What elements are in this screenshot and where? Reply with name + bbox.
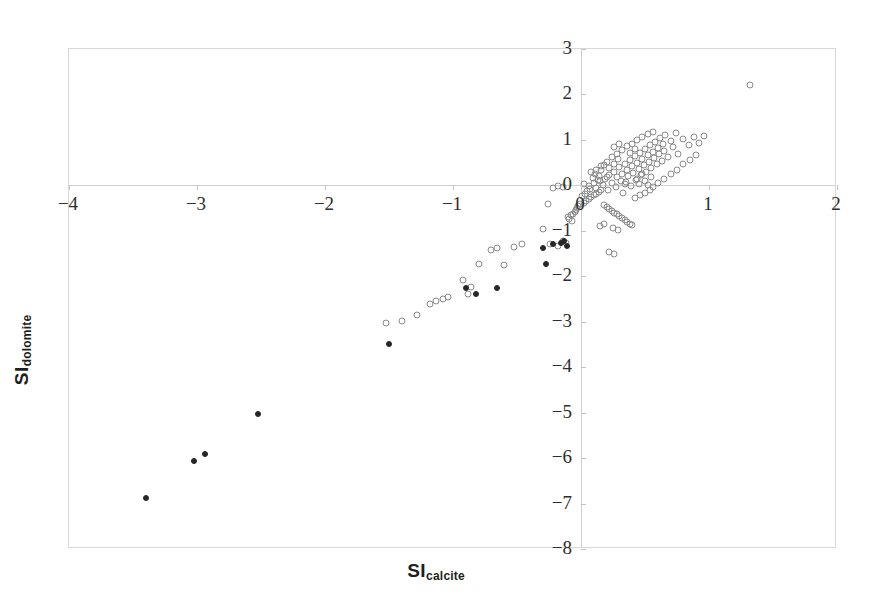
data-point [544, 200, 551, 207]
y-axis-tick-label: −4 [552, 355, 572, 377]
data-point [746, 82, 753, 89]
x-axis-tick-label: −4 [58, 193, 78, 215]
y-axis-tick-label: 3 [563, 37, 573, 59]
y-axis-tick [581, 458, 586, 459]
x-axis-tick-label: −3 [186, 193, 206, 215]
x-axis-tick [453, 185, 454, 190]
data-point [564, 243, 570, 249]
y-axis-tick [581, 140, 586, 141]
data-point [612, 184, 619, 191]
y-axis-tick-label: −5 [552, 401, 572, 423]
y-axis-tick-label: −1 [552, 219, 572, 241]
data-point [597, 223, 604, 230]
data-point [589, 175, 596, 182]
data-point [598, 186, 605, 193]
data-point [675, 150, 682, 157]
x-axis-tick-label: 2 [831, 193, 841, 215]
data-point [603, 174, 610, 181]
y-axis-tick [581, 413, 586, 414]
data-point [191, 458, 197, 464]
data-point [615, 156, 622, 163]
data-point [398, 317, 405, 324]
y-axis-tick-label: −6 [552, 446, 572, 468]
x-axis-title: SIcalcite [407, 560, 465, 583]
data-point [611, 144, 618, 151]
data-point [615, 226, 622, 233]
y-axis-title: SIdolomite [11, 315, 34, 386]
y-axis-tick [581, 231, 586, 232]
y-axis-tick [581, 549, 586, 550]
data-point [672, 129, 679, 136]
data-point [631, 146, 638, 153]
y-axis-tick [581, 94, 586, 95]
y-axis-title-subscript: dolomite [20, 315, 34, 367]
y-axis-title-main: SI [11, 366, 32, 385]
data-point [543, 261, 549, 267]
x-axis-tick [69, 185, 70, 190]
data-point [475, 260, 482, 267]
data-point [473, 291, 479, 297]
data-point [629, 222, 636, 229]
y-axis-tick [581, 276, 586, 277]
y-axis-tick-label: −3 [552, 310, 572, 332]
x-axis-tick [197, 185, 198, 190]
data-point [493, 245, 500, 252]
x-axis-tick-label: −2 [314, 193, 334, 215]
y-axis-tick [581, 322, 586, 323]
data-point [639, 171, 646, 178]
data-point [627, 183, 634, 190]
data-point [665, 154, 672, 161]
data-point [494, 285, 500, 291]
x-axis-tick [837, 185, 838, 190]
x-axis-title-main: SI [407, 560, 426, 581]
data-point [611, 251, 618, 258]
y-axis-tick [581, 504, 586, 505]
data-point [648, 174, 655, 181]
y-axis-tick-label: 1 [563, 128, 573, 150]
data-point [598, 163, 605, 170]
plot-area [68, 48, 836, 548]
scatter-chart-figure: Carbonate rocks Clastic sedimentary rock… [0, 0, 872, 607]
data-point [255, 411, 261, 417]
data-point [700, 133, 707, 140]
x-axis-tick-label: 1 [703, 193, 713, 215]
y-axis-tick [581, 185, 586, 186]
data-point [621, 181, 628, 188]
y-axis-tick-label: −7 [552, 492, 572, 514]
x-axis-tick [325, 185, 326, 190]
data-point [695, 139, 702, 146]
data-point [444, 294, 451, 301]
data-point [620, 189, 627, 196]
data-point [649, 128, 656, 135]
data-point [463, 285, 469, 291]
data-point [686, 156, 693, 163]
data-point [674, 166, 681, 173]
y-axis-tick-label: −2 [552, 264, 572, 286]
data-point [414, 312, 421, 319]
y-zero-axis-line [581, 49, 582, 547]
data-point [501, 262, 508, 269]
data-point [519, 240, 526, 247]
data-point [511, 244, 518, 251]
data-point [693, 152, 700, 159]
data-point [550, 241, 556, 247]
data-point [383, 319, 390, 326]
data-point [386, 341, 392, 347]
x-axis-title-subscript: calcite [426, 569, 465, 583]
data-point [202, 451, 208, 457]
y-axis-tick-label: −8 [552, 537, 572, 559]
y-axis-tick [581, 367, 586, 368]
y-axis-tick-label: 2 [563, 82, 573, 104]
x-axis-tick-label: 0 [575, 193, 585, 215]
data-point [649, 184, 656, 191]
data-point [460, 276, 467, 283]
data-point [540, 245, 546, 251]
data-point [680, 161, 687, 168]
data-point [143, 495, 149, 501]
y-axis-tick-label: 0 [563, 173, 573, 195]
x-zero-axis-line [69, 185, 835, 186]
data-point [685, 142, 692, 149]
data-point [465, 290, 472, 297]
x-axis-tick-label: −1 [442, 193, 462, 215]
data-point [539, 226, 546, 233]
